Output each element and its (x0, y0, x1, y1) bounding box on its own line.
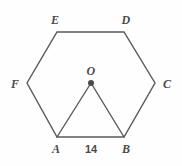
vertex-label-c: C (163, 78, 171, 90)
vertex-label-a: A (52, 143, 60, 155)
vertex-label-d: D (122, 14, 131, 26)
center-point-dot (88, 80, 94, 86)
geometry-figure: E D F C A B O 14 (0, 0, 182, 166)
vertex-label-f: F (11, 78, 19, 90)
vertex-label-e: E (51, 14, 59, 26)
triangle-side-oa (57, 83, 91, 137)
hexagon-diagram-svg (0, 0, 182, 166)
triangle-side-ob (91, 83, 124, 137)
vertex-label-b: B (122, 143, 130, 155)
side-length-label-ab: 14 (85, 144, 97, 155)
center-label-o: O (87, 65, 96, 77)
